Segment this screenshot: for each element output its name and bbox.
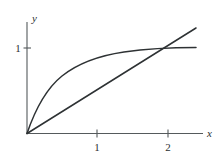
x-tick-label-2: 2 (165, 141, 171, 153)
x-tick-label-1: 1 (94, 141, 100, 153)
curve-concave (27, 48, 196, 134)
plot-canvas: y x 1 1 2 (0, 0, 218, 157)
line-straight (27, 28, 196, 134)
figure-plot: y x 1 1 2 (0, 0, 218, 157)
y-axis-label: y (31, 12, 37, 24)
x-axis-label: x (206, 127, 212, 139)
y-tick-label-1: 1 (15, 42, 21, 54)
